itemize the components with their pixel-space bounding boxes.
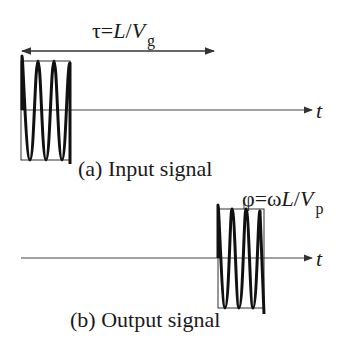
output-wave [218,205,264,314]
panel-b-output-signal: φ=ωL/Vp t (b) Output signal [21,186,323,332]
signal-delay-diagram: τ=L/Vg t (a) Input signal φ=ωL/Vp t (b) … [0,0,349,361]
time-axis-label-a: t [316,98,323,123]
phase-delay-label: φ=ωL/Vp [242,186,323,218]
caption-input-signal: (a) Input signal [78,156,212,181]
panel-a-input-signal: τ=L/Vg t (a) Input signal [21,18,323,181]
group-delay-label: τ=L/Vg [92,18,155,50]
caption-output-signal: (b) Output signal [70,307,220,332]
time-axis-label-b: t [316,246,323,271]
